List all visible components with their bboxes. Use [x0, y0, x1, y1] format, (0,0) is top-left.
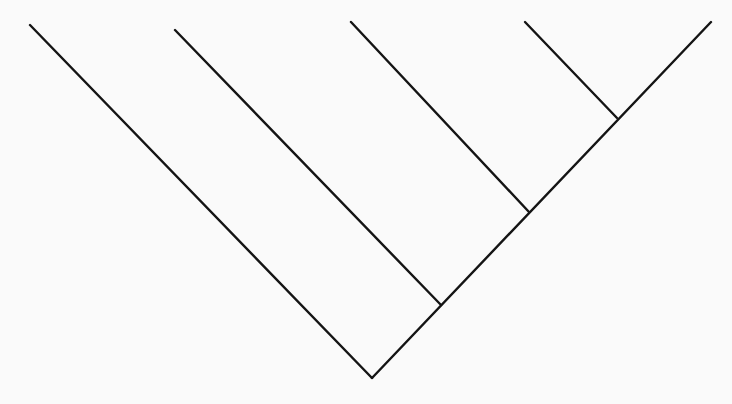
cladogram	[0, 0, 732, 404]
branch-taxon-1	[30, 25, 372, 378]
branch-taxon-3	[351, 22, 529, 212]
main-spine	[372, 22, 711, 378]
branch-taxon-4	[525, 22, 617, 118]
branch-taxon-2	[175, 30, 441, 305]
